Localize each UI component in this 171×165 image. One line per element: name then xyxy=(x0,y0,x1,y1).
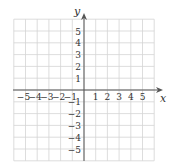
x-tick-label: 5 xyxy=(140,92,146,102)
y-tick-label: 1 xyxy=(75,74,81,84)
y-tick-label: −3 xyxy=(68,121,82,131)
x-tick-labels: −5−4−3−2−112345 xyxy=(17,92,146,102)
y-tick-label: 2 xyxy=(75,62,81,72)
y-tick-label: 4 xyxy=(75,38,81,48)
x-tick-label: 1 xyxy=(93,92,99,102)
x-tick-label: 4 xyxy=(128,92,134,102)
y-tick-label: 5 xyxy=(75,27,81,37)
x-tick-label: 3 xyxy=(116,92,122,102)
y-tick-label: 3 xyxy=(75,50,81,60)
x-tick-label: 2 xyxy=(105,92,111,102)
y-tick-label: −5 xyxy=(68,145,82,155)
coordinate-plane: x y −5−4−3−2−112345 54321−1−2−3−4−5 xyxy=(0,0,171,165)
y-tick-label: −4 xyxy=(68,133,82,143)
x-axis-label: x xyxy=(160,92,167,105)
axes xyxy=(13,13,163,161)
y-tick-label: −2 xyxy=(68,109,81,119)
y-tick-label: −1 xyxy=(68,97,81,107)
y-axis-label: y xyxy=(73,5,81,18)
